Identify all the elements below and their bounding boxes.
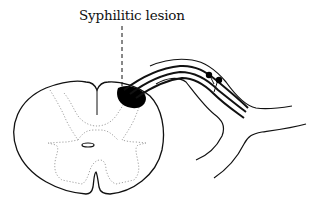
spinal-cord-diagram bbox=[0, 0, 313, 208]
spinal-nerve-sheath-bottom bbox=[156, 78, 224, 160]
ventral-root-outline bbox=[214, 124, 306, 178]
central-canal bbox=[82, 143, 94, 147]
ganglion-cell-1 bbox=[206, 72, 212, 78]
syphilitic-lesion bbox=[117, 86, 146, 108]
ganglion-cell-2 bbox=[216, 77, 222, 83]
